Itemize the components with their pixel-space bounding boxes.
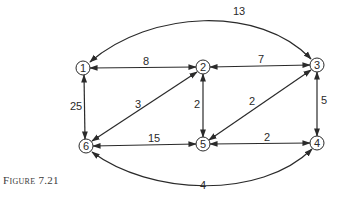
node-5: 5 <box>196 137 210 151</box>
edge-2-3 <box>210 65 310 67</box>
weight-2-5: 2 <box>194 98 200 110</box>
edge-1-6 <box>84 75 85 139</box>
edge-1-3 <box>90 21 311 62</box>
weight-1-2: 8 <box>143 55 149 67</box>
network-diagram: 13 8 7 25 3 2 2 5 15 2 4 1 2 3 <box>0 0 346 203</box>
weight-1-3: 13 <box>233 5 245 17</box>
weight-5-4: 2 <box>264 131 270 143</box>
weight-1-6: 25 <box>70 100 82 112</box>
node-1: 1 <box>76 61 90 75</box>
weight-5-3: 2 <box>249 95 255 107</box>
svg-text:4: 4 <box>314 137 320 149</box>
node-4: 4 <box>310 136 324 150</box>
graph-canvas: 13 8 7 25 3 2 2 5 15 2 4 1 2 3 <box>0 0 346 203</box>
weight-3-4: 5 <box>321 94 327 106</box>
node-2: 2 <box>196 60 210 74</box>
node-6: 6 <box>79 139 93 153</box>
edge-1-2 <box>90 67 196 68</box>
edge-6-5 <box>93 144 196 146</box>
svg-text:1: 1 <box>80 62 86 74</box>
weight-6-2: 3 <box>135 98 141 110</box>
edge-5-4 <box>210 143 310 144</box>
weight-6-5: 15 <box>148 132 160 144</box>
edges <box>84 21 317 186</box>
weight-2-3: 7 <box>258 53 264 65</box>
svg-text:5: 5 <box>200 138 206 150</box>
svg-text:6: 6 <box>83 140 89 152</box>
weight-6-4: 4 <box>200 179 206 191</box>
edge-5-3 <box>209 70 311 140</box>
svg-text:3: 3 <box>314 59 320 71</box>
node-3: 3 <box>310 58 324 72</box>
svg-text:2: 2 <box>200 61 206 73</box>
edge-6-2 <box>92 72 197 141</box>
figure-caption: Figure 7.21 <box>3 174 59 186</box>
